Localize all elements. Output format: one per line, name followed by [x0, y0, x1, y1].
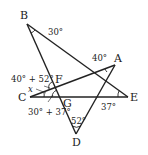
leader-g — [48, 95, 53, 102]
segment-be — [27, 24, 128, 97]
angle-label-e: 37° — [101, 102, 116, 112]
angle-arc-e — [118, 91, 119, 97]
geometry-diagram: B A C E D F G 30° 40° 37° 52° 40° + 52° … — [0, 0, 148, 155]
point-label-f: F — [55, 73, 63, 86]
angle-label-g-sum: 30° + 37° — [28, 107, 71, 117]
point-label-a: A — [113, 52, 123, 65]
angle-arc-b — [31, 30, 35, 33]
point-label-d: D — [72, 136, 81, 149]
angle-arc-d — [72, 126, 81, 127]
angle-arc-a — [105, 69, 107, 72]
angle-label-f-sum: 40° + 52° — [11, 74, 54, 84]
point-label-b: B — [20, 9, 28, 22]
angle-label-x: x — [28, 84, 33, 94]
point-label-e: E — [130, 91, 138, 104]
angle-label-d: 52° — [71, 116, 86, 126]
angle-label-a: 40° — [92, 53, 107, 63]
point-label-c: C — [18, 91, 26, 104]
angle-label-b: 30° — [48, 27, 63, 37]
